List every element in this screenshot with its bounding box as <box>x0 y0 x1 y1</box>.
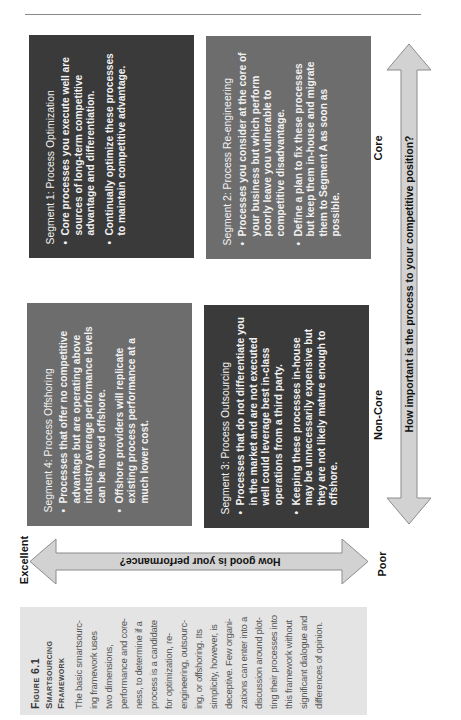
bullet-icon: • <box>59 240 71 244</box>
segment-4-bullet: •Processes that offer no competitive adv… <box>57 313 107 512</box>
segment-2-title: Segment 2: Process Re-engineering <box>221 46 233 245</box>
segment-2-bullet: •Define a plan to fix these processes bu… <box>292 46 342 245</box>
non-core-label: Non-Core <box>372 390 384 440</box>
figure-number: Figure 6.1 <box>28 613 40 709</box>
segment-4-bullet: •Offshore providers will replicate exist… <box>113 313 150 512</box>
figure-caption-box: Figure 6.1 Smartsourcing Framework The b… <box>20 607 367 715</box>
segment-3-bullet: •Processes that do not differentiate you… <box>234 315 284 514</box>
poor-label: Poor <box>376 551 388 576</box>
segment-3-box: Segment 3: Process Outsourcing •Processe… <box>204 305 369 528</box>
segment-4-title: Segment 4: Process Offshoring <box>42 313 54 512</box>
segment-1-title: Segment 1: Process Optimization <box>44 45 56 244</box>
figure-title: Smartsourcing Framework <box>42 613 66 709</box>
segment-3-title: Segment 3: Process Outsourcing <box>219 315 231 514</box>
bullet-icon: • <box>103 240 115 244</box>
performance-axis-question: How good is your performance? <box>119 556 280 568</box>
bullet-icon: • <box>292 241 304 245</box>
figure-caption-text: The basic smartsourc- ing framework uses… <box>70 613 325 709</box>
segment-4-box: Segment 4: Process Offshoring •Processes… <box>27 303 192 526</box>
page-rule <box>25 14 421 15</box>
bullet-icon: • <box>57 508 69 512</box>
importance-axis-question: How important is the process to your com… <box>403 136 415 433</box>
segment-1-box: Segment 1: Process Optimization •Core pr… <box>29 35 194 258</box>
bullet-icon: • <box>234 510 246 514</box>
segment-3-bullet: •Keeping these processes in-house may be… <box>290 315 340 514</box>
segment-1-bullet: •Continually optimize these processes to… <box>103 45 128 244</box>
segment-1-bullet: •Core processes you execute well are sou… <box>59 45 96 244</box>
bullet-icon: • <box>113 508 125 512</box>
bullet-icon: • <box>290 510 302 514</box>
segment-2-box: Segment 2: Process Re-engineering •Proce… <box>206 36 371 259</box>
excellent-label: Excellent <box>18 536 30 584</box>
bullet-icon: • <box>236 241 248 245</box>
segment-2-bullet: •Processes you consider at the core of y… <box>236 46 286 245</box>
core-label: Core <box>372 135 384 160</box>
